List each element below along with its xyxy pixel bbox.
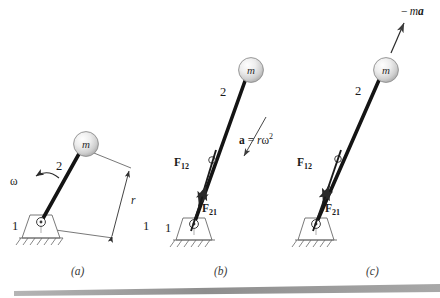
panel-c-force-f21-symbol: F <box>325 202 332 214</box>
inertia-mass-symbol: m <box>410 5 418 17</box>
acceleration-omega-symbol: ω <box>261 134 269 146</box>
panel-a-omega-label: ω <box>10 176 18 188</box>
panel-a-link-2-label: 2 <box>56 160 62 173</box>
panel-b-mass-label: m <box>247 65 255 76</box>
omega-rotation-arrow <box>36 173 59 178</box>
mechanism-free-body-figure: 2 1 1 m ω r (a) 2 1 m F12 F21 a = rω2 (b… <box>0 0 440 298</box>
panel-c-link-2-label: 2 <box>355 85 361 98</box>
radius-dimension-line <box>112 171 129 236</box>
panel-c-mass-label: m <box>382 65 390 76</box>
bottom-gray-bar <box>14 284 440 296</box>
panel-b-force-f12-subscript: 12 <box>181 162 189 171</box>
inertia-minus-sign: − <box>401 5 410 17</box>
panel-c-caption: (c) <box>366 266 379 278</box>
panel-b-force-f21-label: F21 <box>202 203 217 217</box>
panel-a-radius-label: r <box>131 195 135 207</box>
inertia-acceleration-symbol: a <box>418 5 424 17</box>
panel-a-geometry <box>16 132 131 245</box>
panel-b-caption: (b) <box>214 266 227 278</box>
panel-b-force-f21-symbol: F <box>202 202 209 214</box>
panel-c-inertia-force-label: − ma <box>401 6 424 18</box>
panel-b-force-f21-subscript: 21 <box>209 208 217 217</box>
inertia-force-arrow-c <box>391 23 404 53</box>
panel-c-force-f12-subscript: 12 <box>304 162 312 171</box>
panel-b-link-1-label: 1 <box>165 222 171 235</box>
pivot-center-a <box>40 221 43 224</box>
panel-b-acceleration-label: a = rω2 <box>239 133 273 146</box>
panel-a-link-1-label: 1 <box>12 220 18 233</box>
panel-b-force-f12-label: F12 <box>174 157 189 171</box>
panel-a-caption: (a) <box>71 266 84 278</box>
panel-b-link-2-label: 2 <box>220 86 226 99</box>
panel-c-force-f12-label: F12 <box>297 157 312 171</box>
panel-c-geometry <box>292 23 404 247</box>
panel-b-geometry <box>170 58 266 247</box>
acceleration-exponent: 2 <box>269 132 273 141</box>
panel-c-force-f21-label: F21 <box>325 203 340 217</box>
figure-canvas <box>0 0 440 298</box>
panel-a-mass-label: m <box>82 139 90 150</box>
panel-c-force-f21-subscript: 21 <box>332 208 340 217</box>
acceleration-equals: = <box>245 134 257 146</box>
panel-c-force-f12-symbol: F <box>297 156 304 168</box>
panel-a-outer-link-1-label: 1 <box>143 220 149 233</box>
panel-b-force-f12-symbol: F <box>174 156 181 168</box>
